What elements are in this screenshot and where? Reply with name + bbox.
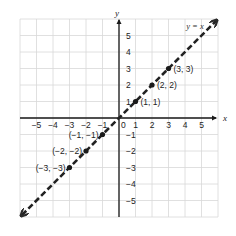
point-label: (−2, −2): [52, 146, 82, 156]
y-tick-label: −2: [126, 146, 136, 156]
x-tick-label: −3: [65, 120, 75, 130]
annotations: y = x: [185, 21, 204, 31]
data-point: [149, 82, 154, 87]
point-label: (1, 1): [141, 97, 161, 107]
data-point: [83, 148, 88, 153]
y-tick-label: −1: [126, 130, 136, 140]
point-label: (−3, −3): [36, 163, 66, 173]
data-point: [133, 99, 138, 104]
coordinate-plane: xy −5−4−3−2−112345−5−4−3−2−1123450 (1, 1…: [0, 0, 236, 236]
data-point: [67, 165, 72, 170]
x-tick-label: 1: [133, 120, 138, 130]
x-tick-label: 5: [199, 120, 204, 130]
y-tick-label: 3: [126, 64, 131, 74]
x-tick-label: −4: [48, 120, 58, 130]
data-point: [166, 66, 171, 71]
y-tick-label: −4: [126, 179, 136, 189]
x-tick-label: 3: [166, 120, 171, 130]
x-tick-label: 2: [150, 120, 155, 130]
x-axis-label: x: [222, 113, 227, 123]
x-tick-label: −1: [98, 120, 108, 130]
point-label: (−1, −1): [69, 130, 99, 140]
x-tick-label: −2: [81, 120, 91, 130]
y-tick-label: 4: [126, 47, 131, 57]
origin-label: 0: [121, 120, 126, 130]
y-tick-label: −3: [126, 163, 136, 173]
y-axis-label: y: [114, 8, 119, 18]
y-tick-label: 5: [126, 31, 131, 41]
x-tick-label: −5: [32, 120, 42, 130]
equation-label: y = x: [185, 21, 204, 31]
y-tick-label: −5: [126, 196, 136, 206]
data-point: [100, 132, 105, 137]
point-label: (2, 2): [157, 80, 177, 90]
x-tick-label: 4: [183, 120, 188, 130]
point-label: (3, 3): [174, 64, 194, 74]
y-tick-label: 2: [126, 80, 131, 90]
